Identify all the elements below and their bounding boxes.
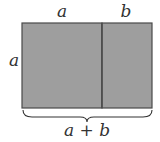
square-region-a: [22, 23, 102, 108]
label-top-b: b: [121, 1, 132, 21]
label-top-a: a: [57, 1, 67, 21]
label-left-a: a: [9, 50, 19, 70]
label-bottom-sum: a + b: [64, 120, 110, 140]
rectangle-region-b: [102, 23, 152, 108]
golden-ratio-diagram: a b a a + b: [0, 0, 160, 142]
